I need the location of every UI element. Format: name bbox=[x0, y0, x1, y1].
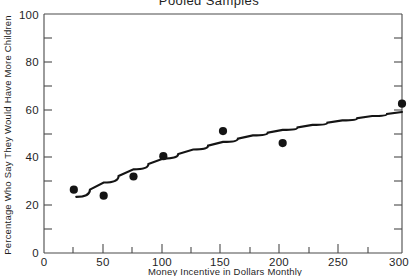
data-point bbox=[129, 172, 137, 180]
fitted-curve bbox=[76, 112, 402, 197]
data-point-group bbox=[70, 100, 406, 200]
data-point bbox=[100, 192, 108, 200]
y-axis-tick-labels: 100 80 60 40 20 0 bbox=[19, 9, 39, 259]
x-tick-label: 250 bbox=[328, 256, 348, 268]
x-tick-label: 300 bbox=[389, 256, 409, 268]
y-tick-label: 100 bbox=[19, 9, 39, 21]
data-point bbox=[219, 127, 227, 135]
y-tick-label: 80 bbox=[26, 56, 39, 68]
x-tick-label: 0 bbox=[41, 256, 48, 268]
data-point bbox=[279, 139, 287, 147]
y-tick-label: 20 bbox=[26, 199, 39, 211]
x-axis-title: Money Incentive in Dollars Monthly bbox=[148, 266, 302, 276]
data-point bbox=[398, 100, 406, 108]
x-tick-label: 50 bbox=[96, 256, 109, 268]
y-axis-right-ticks bbox=[394, 38, 402, 229]
y-tick-label: 0 bbox=[32, 247, 39, 259]
scatter-plot: 100 80 60 40 20 0 0 50 100 150 200 250 3… bbox=[0, 0, 418, 276]
y-tick-label: 40 bbox=[26, 151, 39, 163]
data-point bbox=[159, 152, 167, 160]
chart-figure: Pooled Samples bbox=[0, 0, 418, 276]
y-tick-label: 60 bbox=[26, 104, 39, 116]
x-axis-ticks bbox=[73, 244, 368, 253]
y-axis-title: Percentage Who Say They Would Have More … bbox=[2, 15, 13, 254]
y-axis-ticks bbox=[44, 38, 52, 229]
data-point bbox=[70, 186, 78, 194]
